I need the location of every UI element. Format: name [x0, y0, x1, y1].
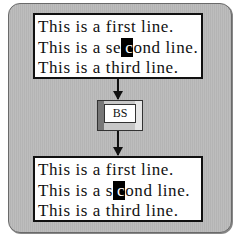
down-arrow-icon	[117, 79, 119, 99]
line-3: This is a third line.	[38, 201, 201, 222]
line-2-post: ond line.	[133, 38, 198, 57]
backspace-key: BS	[97, 100, 143, 131]
text-before-box: This is a first line. This is a second l…	[33, 13, 203, 79]
line-1: This is a first line.	[38, 160, 201, 181]
key-right-side	[135, 101, 142, 130]
text-after-box: This is a first line. This is a scond li…	[33, 156, 203, 222]
text-cursor: c	[113, 181, 125, 200]
line-3: This is a third line.	[38, 58, 201, 79]
line-1: This is a first line.	[38, 17, 201, 38]
line-2-post: ond line.	[125, 181, 190, 200]
line-2-pre: This is a se	[38, 38, 121, 57]
down-arrow-icon	[117, 131, 119, 155]
key-label: BS	[104, 104, 136, 123]
line-2: This is a second line.	[38, 38, 201, 59]
line-2: This is a scond line.	[38, 181, 201, 202]
text-cursor: c	[121, 38, 133, 57]
line-2-pre: This is a s	[38, 181, 113, 200]
